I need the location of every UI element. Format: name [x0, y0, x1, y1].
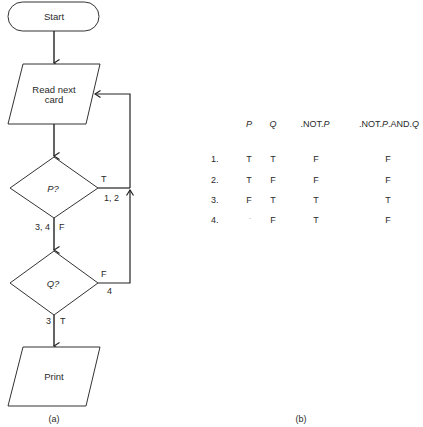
header-and-op: .AND.: [388, 119, 412, 129]
row-4-p: ·: [249, 213, 252, 223]
decision-q-label: Q?: [47, 279, 60, 289]
caption-b: (b): [296, 414, 307, 424]
header-not-p-and-q: .NOT.P.AND.Q: [359, 119, 419, 129]
q-false-cases-label: 4: [107, 287, 112, 296]
start-label: Start: [44, 12, 64, 22]
header-p: P: [246, 119, 252, 129]
row-3-p: F: [246, 195, 252, 205]
row-4-number: 4.: [211, 215, 219, 225]
row-1-p: T: [246, 154, 252, 164]
p-false-label: F: [59, 223, 65, 232]
row-4-not-p-and-q: F: [385, 215, 391, 225]
row-3-not-p: T: [313, 195, 319, 205]
row-2-number: 2.: [211, 175, 219, 185]
flowchart-diagram: [0, 0, 423, 427]
read-card-label-line2: card: [45, 95, 63, 105]
q-true-cases-label: 3: [46, 317, 51, 326]
row-1-not-p-and-q: F: [385, 154, 391, 164]
print-label: Print: [44, 372, 64, 382]
header-not-op: .NOT.: [359, 119, 382, 129]
header-not-p-op: .NOT.: [300, 119, 323, 129]
row-4-q: F: [270, 215, 276, 225]
row-1-not-p: F: [313, 154, 319, 164]
p-true-cases-label: 1, 2: [104, 194, 119, 203]
caption-a: (a): [49, 414, 60, 424]
p-true-label: T: [101, 175, 107, 184]
row-4-not-p: T: [313, 215, 319, 225]
row-3-q: T: [270, 195, 276, 205]
header-not-p-var: P: [324, 119, 330, 129]
p-false-cases-label: 3, 4: [35, 223, 50, 232]
row-1-number: 1.: [211, 154, 219, 164]
row-2-p: T: [246, 175, 252, 185]
row-2-not-p-and-q: F: [385, 175, 391, 185]
q-true-label: T: [60, 317, 66, 326]
row-3-not-p-and-q: T: [385, 195, 391, 205]
header-q: Q: [269, 119, 276, 129]
header-not-p: .NOT.P: [300, 119, 329, 129]
header-q-var: Q: [412, 119, 419, 129]
row-2-not-p: F: [313, 175, 319, 185]
q-false-label: F: [101, 270, 107, 279]
decision-p-label: P?: [47, 184, 59, 194]
row-3-number: 3.: [211, 195, 219, 205]
row-2-q: F: [270, 175, 276, 185]
row-1-q: T: [270, 154, 276, 164]
